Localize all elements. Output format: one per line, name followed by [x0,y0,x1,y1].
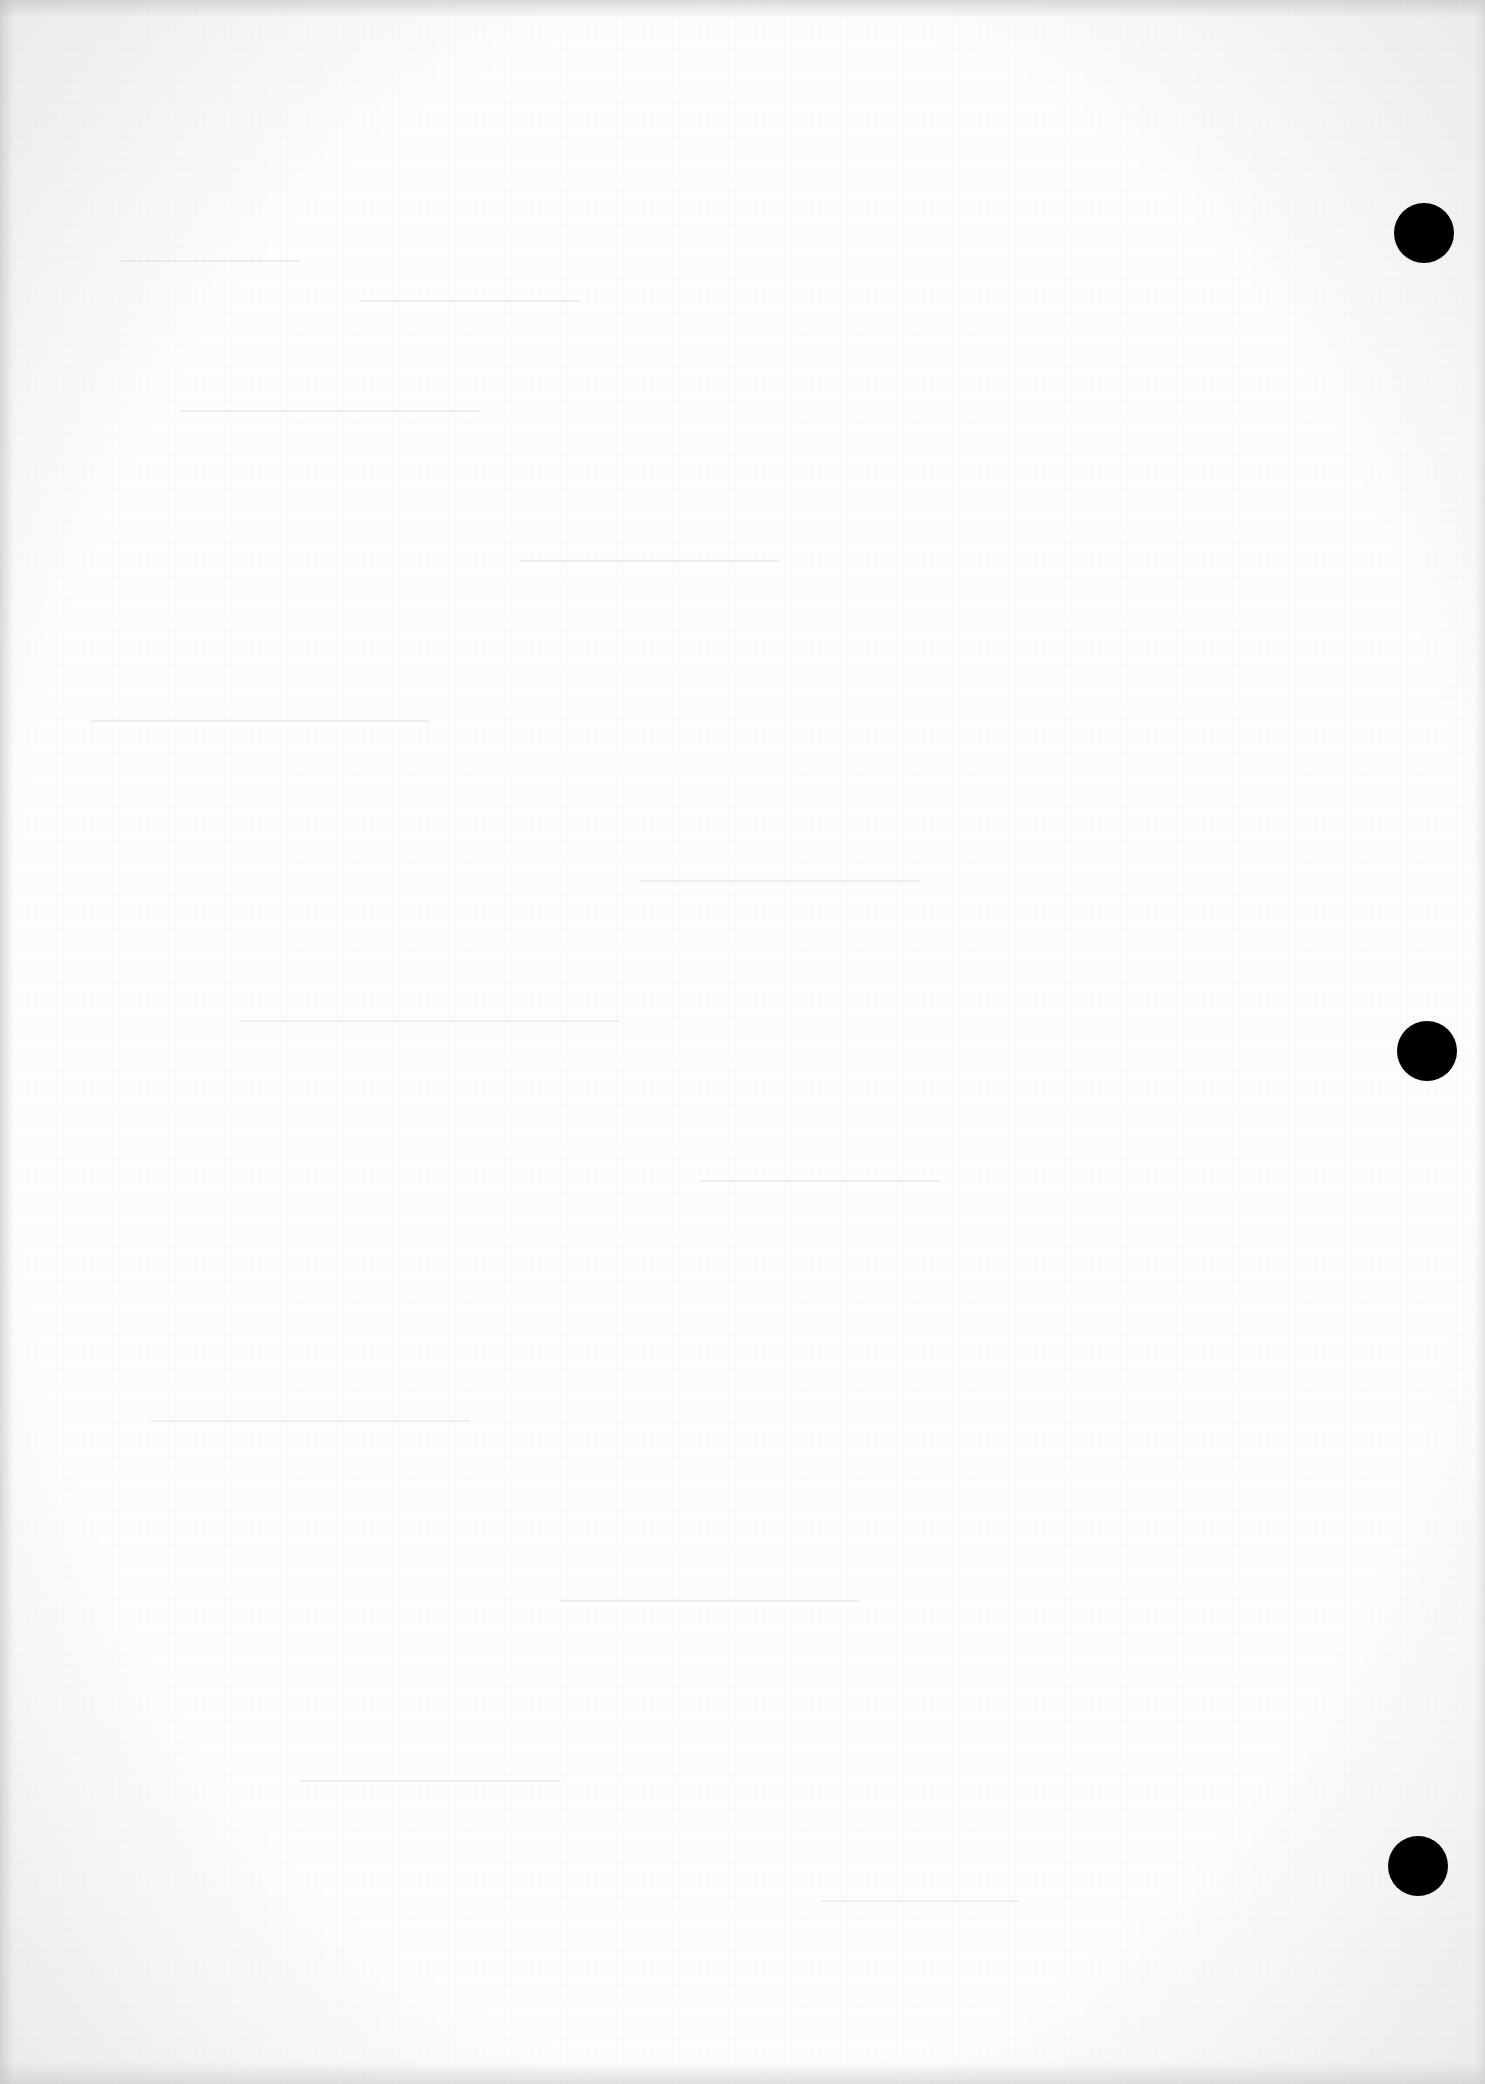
bleed-through-speck [150,1420,470,1422]
bleed-through-speck [560,1600,860,1602]
bleed-through-speck [300,1780,560,1782]
bleed-through-speck [180,410,480,412]
page-text [0,0,1,1]
bleed-through-speck [820,1900,1020,1902]
scan-edge-shadow-right [1475,0,1485,2084]
scan-edge-shadow-bottom [0,2062,1485,2084]
bleed-through-speck [700,1180,940,1182]
scan-edge-shadow-top [0,0,1485,18]
bleed-through-speck [640,880,920,882]
bleed-through-speck [90,720,430,722]
punch-hole-top-icon [1394,203,1454,263]
punch-hole-bottom-icon [1388,1836,1448,1896]
bleed-through-speck [520,560,780,562]
scanned-blank-page [0,0,1485,2084]
scan-edge-shadow-left [0,0,14,2084]
bleed-through-speck [120,260,300,262]
bleed-through-speck [360,300,580,302]
bleed-through-speck [240,1020,620,1022]
punch-hole-middle-icon [1397,1021,1457,1081]
